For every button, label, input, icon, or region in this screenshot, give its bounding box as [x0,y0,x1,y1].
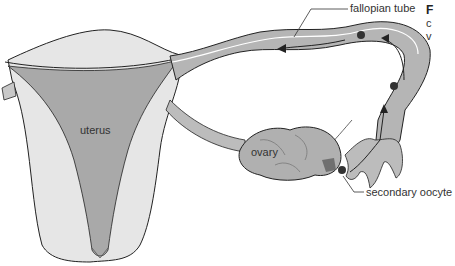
caption-line-1: F [426,4,433,17]
diagram-canvas: fallopian tube uterus ovary secondary oo… [0,0,455,266]
label-ovary: ovary [251,146,278,158]
label-uterus: uterus [80,124,111,136]
figure-caption-fragment: F c v [426,4,433,43]
ovarian-ligament [166,100,245,152]
caption-line-2: c [426,17,433,30]
oocyte-in-tube [357,31,365,39]
reproductive-system-illustration [0,0,455,266]
fimbriae [345,139,403,188]
caption-line-3: v [426,30,433,43]
secondary-oocyte-released [338,166,346,174]
left-ligament-stub [2,82,16,100]
label-secondary-oocyte: secondary oocyte [366,186,452,198]
oocyte-in-fimbriae [390,82,398,90]
label-fallopian-tube: fallopian tube [350,2,415,14]
